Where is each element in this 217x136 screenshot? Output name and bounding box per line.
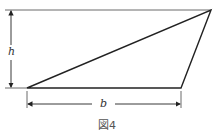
figure-caption: 図4 bbox=[98, 120, 116, 131]
triangle bbox=[27, 10, 211, 88]
base-label: b bbox=[100, 98, 107, 109]
height-label: h bbox=[8, 46, 15, 57]
triangle-diagram bbox=[0, 0, 217, 136]
